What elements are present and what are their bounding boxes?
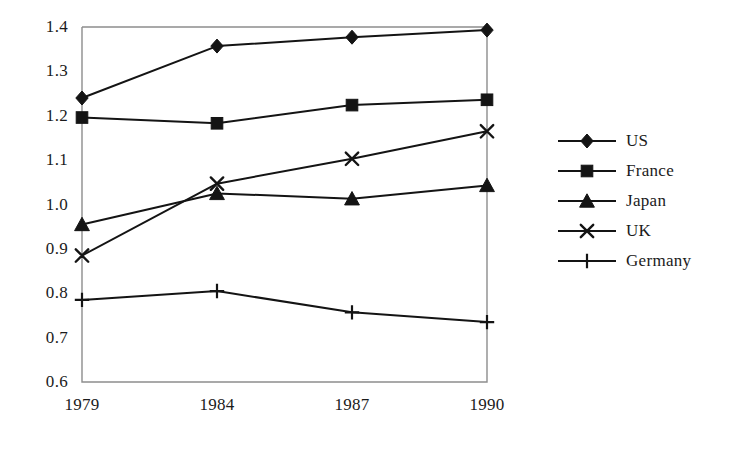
y-tick-label: 0.7 (22, 329, 68, 346)
x-tick-label: 1987 (317, 396, 387, 413)
y-tick-label: 1.0 (22, 196, 68, 213)
chart-legend: USFranceJapanUKGermany (556, 126, 726, 276)
line-chart: 1.41.31.21.11.00.90.80.70.6 197919841987… (0, 0, 734, 450)
x-marker-icon (556, 220, 618, 242)
square-marker-icon (556, 160, 618, 182)
x-tick-label: 1990 (452, 396, 522, 413)
y-tick-label: 0.8 (22, 284, 68, 301)
y-tick-label: 1.1 (22, 151, 68, 168)
y-tick-label: 1.4 (22, 18, 68, 35)
diamond-marker-icon (556, 130, 618, 152)
y-tick-label: 1.2 (22, 107, 68, 124)
legend-item-japan: Japan (556, 186, 726, 216)
x-tick-label: 1984 (182, 396, 252, 413)
triangle-marker-icon (556, 190, 618, 212)
legend-label: France (618, 161, 674, 181)
legend-label: UK (618, 221, 651, 241)
legend-label: US (618, 131, 648, 151)
series-uk (76, 125, 493, 262)
legend-label: Germany (618, 251, 691, 271)
series-japan (75, 178, 495, 230)
legend-item-france: France (556, 156, 726, 186)
y-tick-label: 0.9 (22, 240, 68, 257)
x-tick-label: 1979 (47, 396, 117, 413)
series-germany (75, 284, 494, 329)
y-tick-label: 1.3 (22, 62, 68, 79)
legend-item-us: US (556, 126, 726, 156)
legend-item-germany: Germany (556, 246, 726, 276)
series-france (76, 94, 493, 129)
y-tick-label: 0.6 (22, 373, 68, 390)
axis-frame (82, 27, 487, 382)
legend-label: Japan (618, 191, 666, 211)
series-us (76, 23, 493, 105)
legend-item-uk: UK (556, 216, 726, 246)
plus-marker-icon (556, 250, 618, 272)
